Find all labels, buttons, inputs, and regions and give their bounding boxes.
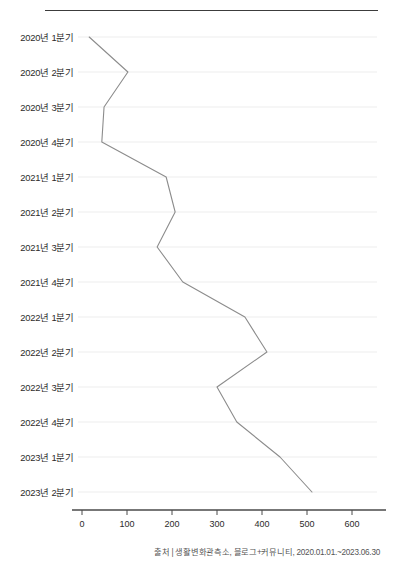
y-axis-tick-label: 2021년 2분기: [20, 205, 74, 219]
x-axis-tick-label: 100: [119, 519, 134, 529]
x-axis-tick-label: 0: [79, 519, 84, 529]
y-axis-tick-label: 2021년 1분기: [20, 170, 74, 184]
x-axis-tick-label: 300: [209, 519, 224, 529]
gridlines-group: [78, 37, 377, 492]
x-axis-tick-label: 200: [164, 519, 179, 529]
source-note: 출처 | 생활변화관측소, 블로그+커뮤니티, 2020.01.01.~2023…: [0, 545, 380, 557]
y-axis-tick-label: 2022년 4분기: [20, 415, 74, 429]
chart-page: 2020년 1분기2020년 2분기2020년 3분기2020년 4분기2021…: [0, 0, 394, 577]
y-axis-tick-label: 2023년 1분기: [20, 450, 74, 464]
chart-plot-area: 2020년 1분기2020년 2분기2020년 3분기2020년 4분기2021…: [0, 0, 394, 530]
y-axis-tick-label: 2023년 2분기: [20, 485, 74, 499]
x-axis-tick-label: 500: [299, 519, 314, 529]
data-line: [89, 37, 312, 492]
x-axis-tick-label: 600: [344, 519, 359, 529]
y-axis-tick-label: 2020년 3분기: [20, 100, 74, 114]
y-axis-tick-label: 2022년 2분기: [20, 345, 74, 359]
data-series-group: [89, 37, 312, 492]
y-axis-tick-label: 2021년 4분기: [20, 275, 74, 289]
y-axis-tick-label: 2022년 1분기: [20, 310, 74, 324]
y-axis-tick-label: 2020년 4분기: [20, 135, 74, 149]
x-axis-tick-label: 400: [254, 519, 269, 529]
y-axis-tick-label: 2020년 1분기: [20, 30, 74, 44]
x-axis-group: [72, 510, 386, 515]
y-axis-tick-label: 2021년 3분기: [20, 240, 74, 254]
y-axis-labels: 2020년 1분기2020년 2분기2020년 3분기2020년 4분기2021…: [0, 0, 74, 530]
y-axis-tick-label: 2022년 3분기: [20, 380, 74, 394]
y-axis-tick-label: 2020년 2분기: [20, 65, 74, 79]
